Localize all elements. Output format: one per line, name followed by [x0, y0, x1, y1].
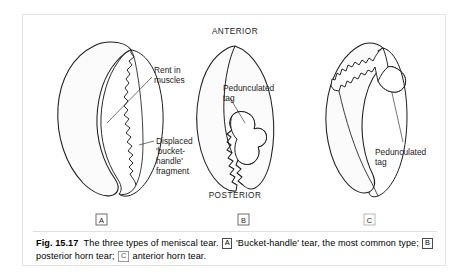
- caption-part-2: 'Bucket-handle' tear, the most common ty…: [236, 238, 419, 248]
- leader-line-tag-c: [392, 93, 403, 142]
- caption-part-1: The three types of meniscal tear.: [84, 238, 219, 248]
- label-rent-line1: Rent in: [154, 65, 181, 75]
- label-fragment-line1: Displaced: [156, 136, 193, 146]
- caption-letter-c: C: [118, 251, 129, 262]
- panel-letter-c-text: C: [367, 216, 373, 225]
- caption-part-4: anterior horn tear.: [133, 251, 207, 261]
- caption-divider: [33, 231, 437, 232]
- posterior-label: POSTERIOR: [209, 191, 262, 200]
- figure-caption: Fig. 15.17 The three types of meniscal t…: [36, 237, 436, 263]
- caption-figure-number: Fig. 15.17: [36, 238, 78, 248]
- anterior-label: ANTERIOR: [212, 27, 258, 36]
- label-fragment-line2: 'bucket-: [156, 146, 185, 156]
- caption-part-3: posterior horn tear;: [36, 251, 115, 261]
- panel-b-diagram: Pedunculated tag: [197, 46, 275, 191]
- panel-letter-b: B: [238, 214, 249, 225]
- caption-letter-a: A: [222, 238, 232, 249]
- label-fragment-line4: fragment: [156, 166, 190, 176]
- leader-line-fragment: [139, 141, 154, 145]
- panel-letter-c: C: [364, 214, 375, 225]
- label-rent-line2: muscles: [154, 75, 185, 85]
- label-tag-b-line1: Pedunculated: [223, 83, 275, 93]
- panel-letter-a-text: A: [99, 216, 104, 225]
- panel-letter-b-text: B: [241, 216, 246, 225]
- panel-letter-a: A: [96, 214, 107, 225]
- label-fragment-line3: handle': [156, 156, 183, 166]
- fragment-edge-a: [131, 50, 143, 185]
- meniscal-tear-diagram: ANTERIOR POSTERIOR Rent in muscles Displ…: [23, 15, 447, 267]
- label-tag-b-line2: tag: [223, 93, 235, 103]
- panel-a-diagram: Rent in muscles Displaced 'bucket- handl…: [58, 42, 193, 196]
- caption-letter-b: B: [422, 238, 432, 249]
- panel-c-diagram: Pedunculated tag: [326, 43, 427, 197]
- label-tag-c-line2: tag: [375, 157, 387, 167]
- label-tag-c-line1: Pedunculated: [375, 147, 427, 157]
- figure-frame: ANTERIOR POSTERIOR Rent in muscles Displ…: [22, 14, 446, 266]
